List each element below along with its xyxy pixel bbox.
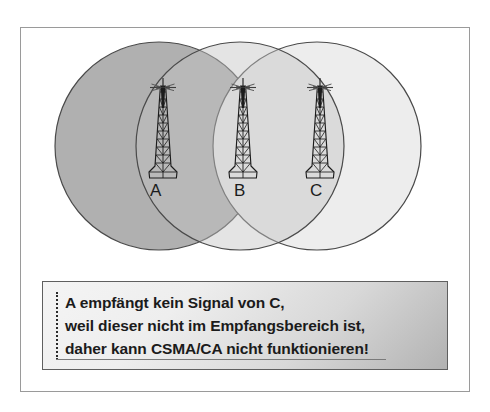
station-label-a: A (150, 181, 161, 201)
caption-line-2: weil dieser nicht im Empfangsbereich ist… (65, 314, 437, 337)
caption-text-block: A empfängt kein Signal von C, weil diese… (43, 282, 447, 369)
caption-line-3: daher kann CSMA/CA nicht funktionieren! (65, 337, 437, 360)
hidden-station-figure: A B C A empfängt kein Signal von C, weil… (0, 0, 490, 412)
station-label-b: B (234, 181, 245, 201)
station-label-c: C (310, 181, 322, 201)
caption-underline (56, 359, 386, 360)
caption-line-1: A empfängt kein Signal von C, (65, 291, 437, 314)
caption-box: A empfängt kein Signal von C, weil diese… (42, 281, 448, 370)
